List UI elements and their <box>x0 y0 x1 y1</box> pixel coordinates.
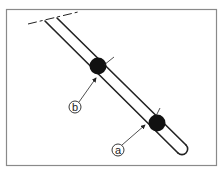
callout-b: b <box>69 101 81 113</box>
diagram-canvas: b a <box>0 0 222 171</box>
callout-a: a <box>112 144 124 156</box>
callout-b-label: b <box>72 101 78 113</box>
tube <box>45 18 188 155</box>
callout-a-label: a <box>115 144 122 156</box>
ball-a <box>149 115 166 132</box>
reference-dashed-line <box>28 12 78 24</box>
ball-b-tick <box>104 57 114 65</box>
leader-arrow-a <box>122 125 145 145</box>
leader-arrow-b <box>79 78 96 102</box>
ball-b <box>90 58 107 75</box>
